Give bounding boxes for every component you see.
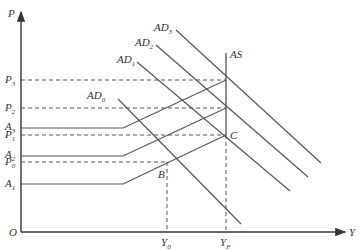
point-c-label: C xyxy=(230,129,238,141)
supply-curve-a1 xyxy=(21,135,226,184)
origin-label: O xyxy=(9,226,17,238)
supply-curve-a2 xyxy=(21,108,226,156)
y0-label: Y0 xyxy=(161,236,171,251)
ad0-label: AD0 xyxy=(86,89,106,104)
p3-label: P3 xyxy=(4,73,16,88)
ad3-curve xyxy=(176,30,321,163)
ad-as-diagram: P Y O AS AD0 AD1 AD2 AD3 P3 P2 P1 P0 A3 … xyxy=(0,0,361,251)
ad3-label: AD3 xyxy=(153,21,173,36)
ad1-label: AD1 xyxy=(116,53,135,68)
supply-curves xyxy=(21,80,226,184)
a1-label: A1 xyxy=(4,177,15,192)
as-label: AS xyxy=(229,48,243,60)
demand-curves xyxy=(118,30,321,224)
p2-label: P2 xyxy=(4,101,16,116)
x-axis: Y xyxy=(21,226,357,238)
ad2-label: AD2 xyxy=(134,36,154,51)
y-axis-label: P xyxy=(7,7,15,19)
point-b-label: B xyxy=(158,168,165,180)
x-axis-label: Y xyxy=(349,226,357,238)
yf-label: YF xyxy=(220,236,231,251)
